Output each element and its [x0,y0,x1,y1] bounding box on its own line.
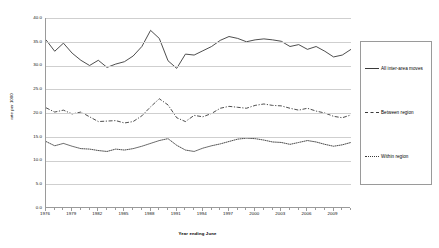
x-axis-title: Year ending June [45,231,350,236]
x-axis-tick-label: 1994 [197,212,207,216]
y-axis-tick-label: 10.0 [0,158,42,162]
legend-entry[interactable]: Within region [365,154,408,159]
x-axis-tick-label: 2006 [301,212,311,216]
x-axis-tick-label: 2003 [275,212,285,216]
gridline [46,113,351,114]
chart-container: rate per 1000 40.035.030.025.020.015.010… [0,0,439,248]
x-axis-minor-tick [80,208,81,210]
plot-area [45,18,350,208]
x-axis-minor-tick [54,208,55,210]
x-axis-tick-label: 2000 [249,212,259,216]
x-axis-minor-tick [184,208,185,210]
x-axis-minor-tick [115,208,116,210]
x-axis-tick-label: 1991 [171,212,181,216]
legend-label: Within region [381,154,408,159]
legend-line-swatch [365,154,379,159]
x-axis-tick-label: 1979 [66,212,76,216]
y-axis-tick-label: 5.0 [0,182,42,186]
x-axis-minor-tick [193,208,194,210]
legend-box: All inter-area movesBetween regionWithin… [360,41,432,185]
x-axis-minor-tick [237,208,238,210]
gridline [46,42,351,43]
y-axis-tick-label: 40.0 [0,16,42,20]
x-axis-tick-label: 1982 [92,212,102,216]
x-axis-minor-tick [62,208,63,210]
x-axis-tick-label: 1988 [145,212,155,216]
x-axis-minor-tick [341,208,342,210]
legend-entry[interactable]: Between region [365,110,414,115]
x-axis-minor-tick [106,208,107,210]
gridline [46,184,351,185]
y-axis-tick-label: 35.0 [0,40,42,44]
y-axis-tick-label: 0.0 [0,206,42,210]
x-axis-minor-tick [324,208,325,210]
x-axis-tick-label: 1976 [40,212,50,216]
x-axis-minor-tick [350,208,351,210]
gridline [46,66,351,67]
x-axis-minor-tick [89,208,90,210]
gridline [46,18,351,19]
y-axis-tick-label: 30.0 [0,63,42,67]
series-line [46,30,351,68]
x-axis-tick-label: 2009 [328,212,338,216]
x-axis-minor-tick [298,208,299,210]
legend-label: All inter-area moves [381,66,423,71]
y-axis-tick-label: 25.0 [0,87,42,91]
legend-line-swatch [365,110,379,115]
series-line [46,99,351,123]
x-axis-minor-tick [211,208,212,210]
gridline [46,161,351,162]
series-line [46,138,351,151]
x-axis-minor-tick [132,208,133,210]
legend-label: Between region [381,110,414,115]
x-axis-tick-label: 1997 [223,212,233,216]
x-axis-minor-tick [219,208,220,210]
x-axis-tick-label: 1985 [118,212,128,216]
x-axis-minor-tick [315,208,316,210]
x-axis-minor-tick [245,208,246,210]
legend-entry[interactable]: All inter-area moves [365,66,423,71]
gridline [46,137,351,138]
y-axis-tick-labels: 40.035.030.025.020.015.010.05.00.0 [0,18,42,208]
x-axis-minor-tick [263,208,264,210]
x-axis-tick-labels: 1976197919821985198819911994199720002003… [45,212,365,222]
x-axis-minor-tick [158,208,159,210]
gridline [46,89,351,90]
x-axis-minor-tick [272,208,273,210]
y-axis-tick-label: 15.0 [0,135,42,139]
x-axis-minor-tick [141,208,142,210]
x-axis-minor-tick [167,208,168,210]
x-axis-minor-tick [289,208,290,210]
legend-line-swatch [365,66,379,71]
y-axis-tick-label: 20.0 [0,111,42,115]
